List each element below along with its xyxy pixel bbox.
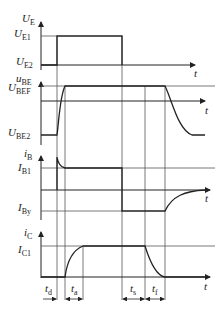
svg-text:IB1: IB1: [17, 161, 31, 176]
svg-text:tf: tf: [152, 282, 158, 297]
svg-text:IC1: IC1: [17, 243, 31, 258]
svg-text:IBy: IBy: [17, 201, 31, 216]
svg-text:td: td: [45, 282, 52, 297]
svg-text:t: t: [205, 104, 209, 116]
svg-text:ta: ta: [71, 282, 78, 297]
svg-text:t: t: [204, 280, 208, 292]
svg-text:iB: iB: [24, 147, 32, 162]
svg-text:ts: ts: [130, 282, 136, 297]
switching-waveform-diagram: UE UE1 UE2 t uBE UBEF UBE2 t iB IB1 IBy …: [0, 0, 221, 309]
panel-input-voltage: UE UE1 UE2 t: [14, 12, 198, 79]
svg-text:UE2: UE2: [16, 55, 33, 70]
svg-text:uBE: uBE: [16, 72, 32, 87]
svg-text:UE1: UE1: [14, 27, 31, 42]
ue-axis-label: UE: [22, 12, 35, 27]
svg-text:UBE2: UBE2: [8, 126, 30, 141]
panel-base-current: iB IB1 IBy t: [17, 147, 215, 220]
svg-text:t: t: [205, 192, 209, 204]
time-interval-annotations: td ta ts tf: [43, 282, 164, 299]
svg-text:t: t: [194, 67, 198, 79]
svg-text:iC: iC: [24, 226, 32, 241]
panel-base-emitter-voltage: uBE UBEF UBE2 t: [8, 72, 215, 145]
